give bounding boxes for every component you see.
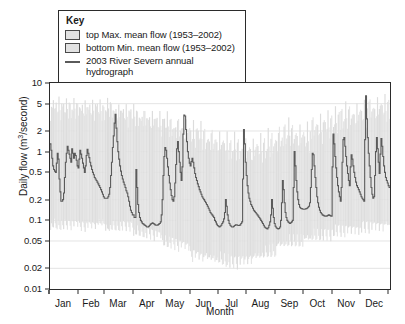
y-tick-label: 10 — [32, 78, 42, 88]
legend-label-max: top Max. mean flow (1953–2002) — [86, 29, 222, 40]
legend-box: Key top Max. mean flow (1953–2002) botto… — [58, 10, 246, 83]
x-tick-mark — [160, 290, 161, 294]
y-tick-label: 0.5 — [29, 168, 42, 178]
x-tick-mark — [332, 290, 333, 294]
y-tick-label: 2 — [37, 126, 42, 136]
x-tick-mark — [217, 290, 218, 294]
y-tick-label: 0.1 — [29, 216, 42, 226]
envelope-bar — [389, 119, 390, 225]
x-tick-mark — [246, 290, 247, 294]
x-tick-mark — [303, 290, 304, 294]
y-axis-ticks: 105210.50.20.10.050.020.01 — [0, 82, 49, 290]
x-tick-mark — [275, 290, 276, 294]
y-tick-label: 0.2 — [29, 195, 42, 205]
legend-item-min: bottom Min. mean flow (1953–2002) — [65, 42, 239, 53]
y-tick-label: 0.01 — [24, 284, 42, 294]
legend-label-min: bottom Min. mean flow (1953–2002) — [86, 42, 235, 53]
x-tick-mark — [103, 290, 104, 294]
x-tick-mark — [77, 290, 78, 294]
x-tick-mark — [388, 290, 389, 294]
legend-title: Key — [66, 15, 239, 26]
flow-envelope-band — [50, 94, 390, 270]
y-tick-label: 0.02 — [24, 264, 42, 274]
y-tick-label: 5 — [37, 99, 42, 109]
hydrograph-figure: Daily flow (m3/second) 105210.50.20.10.0… — [0, 0, 405, 324]
legend-item-hydrograph: 2003 River Severn annual hydrograph — [65, 55, 239, 77]
y-tick-label: 1 — [37, 147, 42, 157]
x-tick-mark — [132, 290, 133, 294]
x-tick-mark — [189, 290, 190, 294]
plot-canvas — [50, 83, 390, 289]
x-tick-mark — [360, 290, 361, 294]
x-tick-mark — [49, 290, 50, 294]
y-tick-label: 0.05 — [24, 236, 42, 246]
legend-item-max: top Max. mean flow (1953–2002) — [65, 29, 239, 40]
plot-area — [49, 82, 391, 290]
x-axis-label: Month — [49, 306, 391, 317]
hydrograph-line-swatch — [65, 56, 80, 66]
min-flow-swatch — [65, 43, 80, 53]
legend-label-hydrograph: 2003 River Severn annual hydrograph — [86, 55, 239, 77]
max-flow-swatch — [65, 30, 80, 40]
